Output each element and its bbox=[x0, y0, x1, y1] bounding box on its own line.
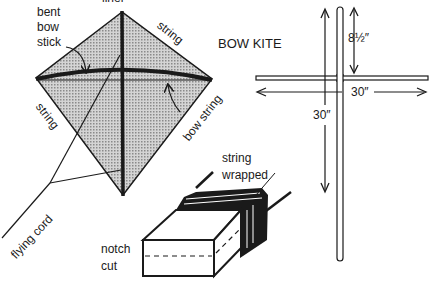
string-wrapped-line-1: string bbox=[222, 151, 268, 166]
bow-kite-title: BOW KITE bbox=[218, 36, 282, 52]
top-cut-label: liner bbox=[102, 0, 125, 6]
string-wrapped-label: string wrapped bbox=[222, 151, 268, 183]
dimension-top-to-crossbar: 8½″ bbox=[348, 31, 369, 46]
notch-cut-label: notch cut bbox=[101, 242, 130, 274]
string-wrapped-line-2: wrapped bbox=[222, 168, 268, 183]
notch-drawing bbox=[143, 172, 291, 276]
notch-cut-line-2: cut bbox=[101, 259, 130, 274]
dimension-crossbar-width: 30″ bbox=[351, 85, 369, 100]
bent-bow-stick-label: bent bow stick bbox=[37, 5, 61, 50]
bent-bow-stick-line-3: stick bbox=[37, 35, 61, 50]
bent-bow-stick-line-1: bent bbox=[37, 5, 61, 20]
notch-cut-line-1: notch bbox=[101, 242, 130, 257]
bent-bow-stick-line-2: bow bbox=[37, 20, 61, 35]
dimension-spine-length: 30″ bbox=[313, 108, 331, 123]
